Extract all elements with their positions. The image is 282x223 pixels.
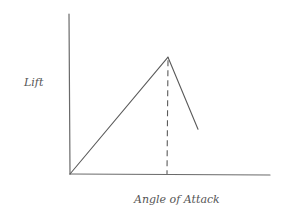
- x-axis: [70, 174, 270, 175]
- lift-stall-drop-segment: [168, 57, 198, 129]
- x-axis-label: Angle of Attack: [133, 193, 220, 206]
- annotation-layer: [167, 60, 168, 174]
- lift-rising-segment: [70, 57, 168, 174]
- lift-vs-angle-chart: Lift Angle of Attack: [0, 0, 282, 223]
- stall-angle-dashed-line: [167, 60, 168, 174]
- y-axis-label: Lift: [23, 76, 44, 89]
- series-layer: [70, 57, 198, 174]
- y-axis: [69, 14, 70, 174]
